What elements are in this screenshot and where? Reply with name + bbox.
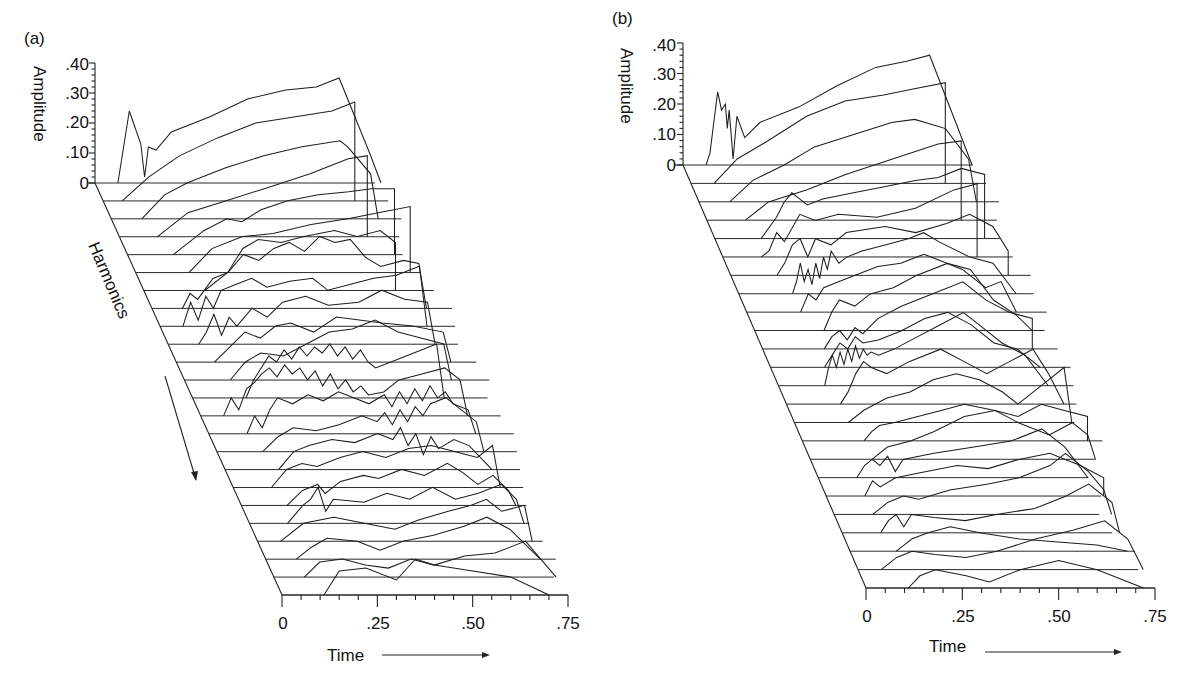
y-tick-label: .30 bbox=[652, 65, 676, 84]
harmonics-arrow-icon bbox=[165, 376, 198, 481]
panel-b-x-axis-label: Time bbox=[929, 637, 966, 656]
harmonics-axis-line bbox=[95, 183, 282, 595]
panel-b-traces bbox=[683, 55, 1155, 588]
waterfall-figure: (a) Amplitude .40 .30 .20 .10 0 Harmonic… bbox=[0, 0, 1182, 684]
y-tick-label: .20 bbox=[65, 113, 89, 132]
x-tick-label: 0 bbox=[862, 607, 871, 626]
harmonic-trace-h3 bbox=[730, 119, 977, 201]
panel-a-axes bbox=[87, 63, 568, 607]
harmonic-trace-h10 bbox=[199, 290, 435, 344]
harmonic-trace-h17 bbox=[872, 411, 1096, 460]
harmonic-trace-h18 bbox=[857, 429, 1088, 478]
harmonic-trace-h15 bbox=[247, 386, 476, 434]
panel-a-x-tick-labels: 0 .25 .50 .75 bbox=[278, 614, 580, 633]
y-tick-label: .10 bbox=[652, 125, 676, 144]
x-tick-label: .75 bbox=[556, 614, 580, 633]
y-tick-label: .30 bbox=[65, 84, 89, 103]
y-tick-label: .10 bbox=[65, 143, 89, 162]
y-tick-label: 0 bbox=[667, 156, 676, 175]
time-arrow-icon bbox=[985, 649, 1122, 655]
x-tick-label: .25 bbox=[366, 614, 390, 633]
harmonic-trace-h23 bbox=[881, 521, 1143, 570]
panel-a-traces bbox=[95, 78, 568, 595]
harmonic-trace-h2 bbox=[122, 102, 355, 201]
harmonic-trace-h8 bbox=[793, 233, 1017, 294]
harmonic-trace-h4 bbox=[745, 141, 961, 220]
panel-b-axes bbox=[675, 43, 1155, 600]
panel-a-chart: (a) Amplitude .40 .30 .20 .10 0 Harmonic… bbox=[24, 29, 580, 665]
harmonic-trace-h7 bbox=[777, 214, 1008, 275]
harmonic-trace-h22 bbox=[896, 527, 1127, 551]
panel-b-x-tick-labels: 0 .25 .50 .75 bbox=[862, 607, 1167, 626]
harmonics-axis-line bbox=[683, 165, 866, 588]
harmonic-trace-h15 bbox=[848, 368, 1072, 423]
panel-b-y-axis-label: Amplitude bbox=[617, 48, 636, 124]
y-tick-label: .20 bbox=[652, 95, 676, 114]
panel-b-y-tick-labels: .40 .30 .20 .10 0 bbox=[652, 36, 676, 175]
x-tick-label: .50 bbox=[1047, 607, 1071, 626]
harmonic-trace-h20 bbox=[873, 453, 1112, 514]
harmonic-trace-h12 bbox=[825, 312, 1041, 367]
panel-a-label: (a) bbox=[24, 29, 45, 48]
harmonic-trace-h14 bbox=[840, 349, 1064, 404]
x-tick-label: .25 bbox=[951, 607, 975, 626]
x-tick-label: .75 bbox=[1143, 607, 1167, 626]
harmonic-trace-h11 bbox=[824, 282, 1032, 349]
panel-a-x-axis-label: Time bbox=[327, 646, 364, 665]
harmonic-trace-h1 bbox=[706, 55, 972, 165]
time-arrow-icon bbox=[382, 652, 490, 658]
y-tick-label: .40 bbox=[65, 55, 89, 74]
panel-b-label: (b) bbox=[612, 9, 633, 28]
harmonic-trace-h24 bbox=[908, 561, 1143, 589]
harmonic-trace-h4 bbox=[158, 156, 368, 237]
y-tick-label: .40 bbox=[652, 36, 676, 55]
harmonic-trace-h6 bbox=[189, 207, 410, 273]
x-tick-label: .50 bbox=[461, 614, 485, 633]
harmonic-trace-h7 bbox=[205, 231, 396, 291]
harmonic-trace-h11 bbox=[214, 317, 451, 362]
harmonic-trace-h14 bbox=[224, 365, 468, 416]
harmonic-trace-h21 bbox=[881, 484, 1120, 533]
harmonic-trace-h1 bbox=[118, 78, 381, 183]
panel-a-y-axis-label: Amplitude bbox=[30, 66, 49, 142]
panel-b-chart: (b) Amplitude .40 .30 .20 .10 0 0 .25 .5… bbox=[612, 9, 1167, 656]
harmonic-trace-h3 bbox=[142, 141, 378, 219]
harmonic-trace-h12 bbox=[230, 320, 451, 380]
panel-a-y-tick-labels: .40 .30 .20 .10 0 bbox=[65, 55, 89, 193]
x-tick-label: 0 bbox=[278, 614, 287, 633]
harmonic-trace-h16 bbox=[263, 398, 484, 452]
